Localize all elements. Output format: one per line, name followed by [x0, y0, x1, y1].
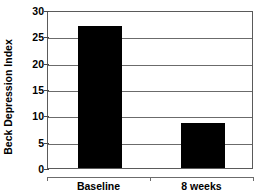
- bar-chart-figure: Beck Depression Index 051015202530 Basel…: [0, 0, 260, 194]
- y-axis-tick-label: 25: [14, 32, 44, 42]
- y-axis-tick-mark: [44, 143, 49, 144]
- x-axis-tick-label: Baseline: [47, 180, 150, 192]
- y-axis-tick-mark: [44, 64, 49, 65]
- y-axis-tick-mark: [44, 90, 49, 91]
- y-axis-tick-mark: [44, 37, 49, 38]
- y-axis-tick-label: 30: [14, 6, 44, 16]
- y-axis-tick-label: 20: [14, 59, 44, 69]
- x-axis-tick-mark: [47, 177, 48, 181]
- y-axis-tick-mark: [44, 116, 49, 117]
- plot-area: [47, 11, 253, 169]
- y-axis-tick-label: 0: [14, 164, 44, 174]
- bar: [181, 123, 225, 168]
- y-axis-tick-label: 15: [14, 85, 44, 95]
- y-axis-tick-mark: [44, 169, 49, 170]
- y-axis-tick-mark: [44, 11, 49, 12]
- y-axis-tick-label: 10: [14, 111, 44, 121]
- x-axis-tick-mark: [253, 177, 254, 181]
- x-axis-tick-label: 8 weeks: [150, 180, 253, 192]
- y-axis-tick-label: 5: [14, 138, 44, 148]
- x-axis-tick-mark: [150, 177, 151, 181]
- bar: [78, 26, 122, 168]
